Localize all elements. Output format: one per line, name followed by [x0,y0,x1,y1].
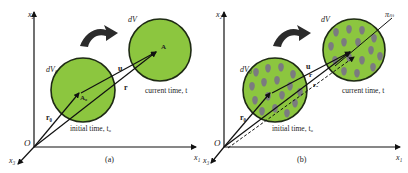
panel-b: x₂ x₁ x₃ O (b) dV₀ dV u r rₐ πₘ r₀ initi… [202,10,403,165]
label-pi-m: πₘ [385,10,394,19]
label-initial-time: initial time, t₀ [272,124,314,133]
label-u: u [118,64,123,73]
label-ra: rₐ [313,81,318,89]
caption-a: (a) [105,155,114,164]
axis-label-x1: x₁ [395,153,403,162]
label-dV: dV [321,15,331,24]
label-u: u [306,62,311,71]
origin-label: O [24,138,31,148]
axis-label-x1: x₁ [193,153,201,162]
label-r: r [309,71,312,79]
label-r0: r₀ [240,113,247,122]
axis-label-x2: x₂ [27,10,35,19]
label-r0: r₀ [46,113,53,122]
label-dV0: dV₀ [46,65,58,74]
initial-volume-dV0 [243,58,307,122]
panel-a: x₂ x₁ x₃ O (a) dV₀ dV u r r₀ A₀ A initia… [8,10,201,165]
label-current-time: current time, t [342,86,385,95]
axis-label-x3: x₃ [8,156,16,165]
caption-b: (b) [297,155,307,164]
axis-label-x3: x₃ [202,156,210,165]
x3-axis [18,147,34,164]
initial-volume-dV0 [51,58,115,122]
label-current-time: current time, t [145,86,188,95]
curved-arrow-icon [80,25,118,47]
current-volume-dV [129,19,191,81]
kinematics-diagram: x₂ x₁ x₃ O (a) dV₀ dV u r r₀ A₀ A initia… [0,0,408,173]
label-dV0: dV₀ [240,65,252,74]
origin-label: O [214,138,221,148]
x3-axis [211,147,224,163]
axis-label-x2: x₂ [215,10,223,19]
label-initial-time: initial time, t₀ [70,124,112,133]
label-A0: A₀ [80,94,87,102]
label-dV: dV [128,15,138,24]
curved-arrow-icon [273,25,311,47]
label-r: r [124,83,128,92]
label-A: A [161,43,166,51]
